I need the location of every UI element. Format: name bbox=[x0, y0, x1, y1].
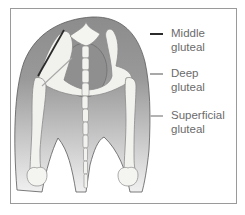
legend-label: Superficial gluteal bbox=[171, 108, 225, 136]
light-line-icon bbox=[150, 115, 163, 117]
legend-label: Deep gluteal bbox=[171, 66, 205, 94]
dark-line-icon bbox=[150, 33, 163, 35]
legend-label: Middle gluteal bbox=[171, 26, 205, 54]
grey-line-icon bbox=[150, 73, 163, 75]
